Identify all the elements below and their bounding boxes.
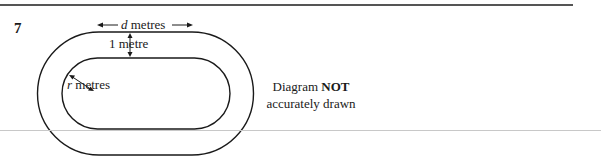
note-line-2: accurately drawn — [262, 95, 360, 112]
not-accurate-note: Diagram NOT accurately drawn — [262, 78, 360, 112]
d-metres-label: d metres — [121, 17, 165, 32]
note-line-1: Diagram NOT — [262, 78, 360, 95]
note-prefix: Diagram — [273, 79, 322, 94]
one-metre-label: 1 metre — [109, 36, 149, 51]
r-metres-label: r metres — [67, 77, 110, 92]
note-bold-not: NOT — [321, 79, 349, 94]
inner-track-boundary — [62, 58, 230, 129]
page-divider — [0, 130, 601, 131]
